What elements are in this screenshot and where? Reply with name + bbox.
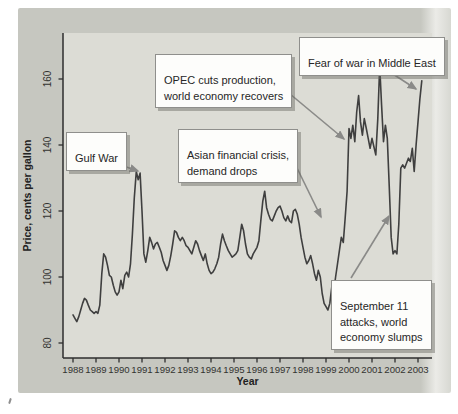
figure-panel: 8010012014016019881989199019911992199319… <box>18 8 451 393</box>
annotation-text: September 11 attacks, world economy slum… <box>340 300 423 343</box>
page-background: 8010012014016019881989199019911992199319… <box>0 0 458 414</box>
annotation-text: Fear of war in Middle East <box>308 57 436 69</box>
x-tick-label: 2002 <box>384 364 405 375</box>
x-tick-label: 1990 <box>108 364 129 375</box>
x-tick-label: 1998 <box>292 364 313 375</box>
annotation-gulf-war: Gulf War <box>66 132 127 171</box>
y-tick-label: 80 <box>42 337 53 349</box>
x-axis-title: Year <box>236 375 258 387</box>
annotation-opec: OPEC cuts production, world economy reco… <box>155 54 292 108</box>
annotation-text: Asian financial crisis, demand drops <box>187 149 289 176</box>
x-tick-label: 1994 <box>200 364 222 375</box>
x-tick-label: 1988 <box>62 364 83 375</box>
x-tick-label: 1997 <box>269 364 290 375</box>
x-tick-label: 1991 <box>131 364 152 375</box>
annotation-text: Gulf War <box>75 152 118 164</box>
annotation-text: OPEC cuts production, world economy reco… <box>164 74 283 101</box>
y-tick-label: 160 <box>42 70 53 87</box>
x-tick-label: 2003 <box>407 364 428 375</box>
y-tick-label: 100 <box>42 268 53 285</box>
stray-mark <box>8 398 12 404</box>
x-tick-label: 1999 <box>315 364 336 375</box>
annotation-asian-crisis: Asian financial crisis, demand drops <box>178 129 298 183</box>
x-tick-label: 2000 <box>338 364 359 375</box>
x-tick-label: 1995 <box>223 364 244 375</box>
x-tick-label: 1993 <box>177 364 198 375</box>
x-tick-label: 1996 <box>246 364 267 375</box>
y-tick-label: 140 <box>42 136 53 153</box>
x-tick-label: 2001 <box>361 364 382 375</box>
y-tick-label: 120 <box>42 202 53 219</box>
x-tick-label: 1989 <box>85 364 106 375</box>
y-axis-title: Price, cents per gallon <box>21 139 33 251</box>
annotation-september-11: September 11 attacks, world economy slum… <box>331 280 432 350</box>
annotation-fear-of-war: Fear of war in Middle East <box>299 37 445 76</box>
x-tick-label: 1992 <box>154 364 175 375</box>
